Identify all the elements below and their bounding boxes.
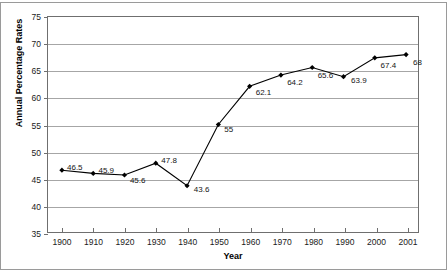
data-point-label: 43.6 bbox=[194, 185, 210, 194]
x-axis-title: Year bbox=[47, 251, 419, 261]
y-axis-tick-label: 55 bbox=[32, 121, 41, 131]
y-axis-tick bbox=[44, 234, 48, 235]
y-axis-tick-label: 45 bbox=[32, 175, 41, 185]
y-axis-tick-label: 65 bbox=[32, 66, 41, 76]
data-point-label: 47.8 bbox=[161, 155, 177, 164]
data-point-marker bbox=[403, 52, 408, 57]
y-axis-tick-label: 75 bbox=[32, 12, 41, 22]
x-axis-tick-label: 1900 bbox=[53, 237, 72, 247]
data-point-label: 45.6 bbox=[130, 176, 146, 185]
y-axis-title: Annual Percentage Rates bbox=[14, 0, 24, 148]
x-axis-tick-label: 1950 bbox=[210, 237, 229, 247]
data-point-label: 45.9 bbox=[98, 165, 114, 174]
y-axis-tick-label: 50 bbox=[32, 148, 41, 158]
x-axis-tick-label: 1980 bbox=[304, 237, 323, 247]
data-point-label: 68 bbox=[413, 57, 422, 66]
data-point-label: 64.2 bbox=[287, 77, 303, 86]
x-axis-tick-label: 1940 bbox=[178, 237, 197, 247]
x-axis-tick-label: 1930 bbox=[147, 237, 166, 247]
y-axis-tick-label: 70 bbox=[32, 39, 41, 49]
data-point-label: 62.1 bbox=[256, 87, 272, 96]
data-point-marker bbox=[59, 168, 64, 173]
data-point-marker bbox=[310, 65, 315, 70]
x-axis-tick-label: 2001 bbox=[399, 237, 418, 247]
y-axis-tick-label: 60 bbox=[32, 93, 41, 103]
data-point-marker bbox=[278, 72, 283, 77]
data-point-marker bbox=[122, 172, 127, 177]
chart-figure: 354045505560657075 190019101920193019401… bbox=[0, 0, 448, 274]
data-point-marker bbox=[372, 55, 377, 60]
x-axis-tick-label: 1910 bbox=[84, 237, 103, 247]
y-axis-tick-label: 40 bbox=[32, 202, 41, 212]
data-point-label: 65.6 bbox=[318, 70, 334, 79]
data-point-marker bbox=[91, 171, 96, 176]
y-axis-tick-label: 35 bbox=[32, 229, 41, 239]
data-point-label: 63.9 bbox=[351, 76, 367, 85]
data-point-marker bbox=[341, 74, 346, 79]
data-point-label: 67.4 bbox=[381, 61, 397, 70]
x-axis-tick-label: 1960 bbox=[241, 237, 260, 247]
x-axis-tick-label: 1970 bbox=[273, 237, 292, 247]
x-axis-tick-label: 1920 bbox=[115, 237, 134, 247]
x-axis-tick-label: 1990 bbox=[336, 237, 355, 247]
plot-area: 354045505560657075 190019101920193019401… bbox=[47, 16, 419, 233]
data-point-label: 46.5 bbox=[67, 162, 83, 171]
data-point-label: 55 bbox=[224, 124, 233, 133]
x-axis-tick-label: 2000 bbox=[367, 237, 386, 247]
